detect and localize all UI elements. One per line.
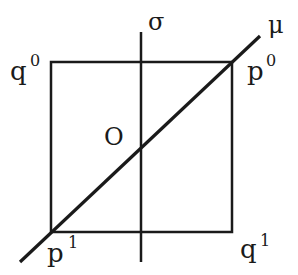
q1-superscript: 1 bbox=[260, 231, 270, 250]
p1-label: p 1 bbox=[47, 233, 78, 268]
q1-base: q bbox=[240, 234, 257, 264]
p1-superscript: 1 bbox=[68, 233, 78, 252]
sigma-label: σ bbox=[148, 8, 164, 36]
diagram-canvas: σ μ O q 0 p 0 p 1 q 1 bbox=[0, 0, 298, 275]
q1-label: q 1 bbox=[240, 231, 270, 264]
p0-label: p 0 bbox=[247, 51, 276, 86]
q0-label: q 0 bbox=[10, 51, 40, 86]
p1-base: p bbox=[47, 238, 64, 268]
p0-superscript: 0 bbox=[266, 51, 276, 70]
diagram-svg: σ μ O q 0 p 0 p 1 q 1 bbox=[0, 0, 298, 275]
q0-base: q bbox=[10, 56, 27, 86]
q0-superscript: 0 bbox=[30, 51, 40, 70]
origin-label: O bbox=[104, 123, 124, 151]
mu-label: μ bbox=[268, 11, 284, 39]
p0-base: p bbox=[247, 56, 264, 86]
